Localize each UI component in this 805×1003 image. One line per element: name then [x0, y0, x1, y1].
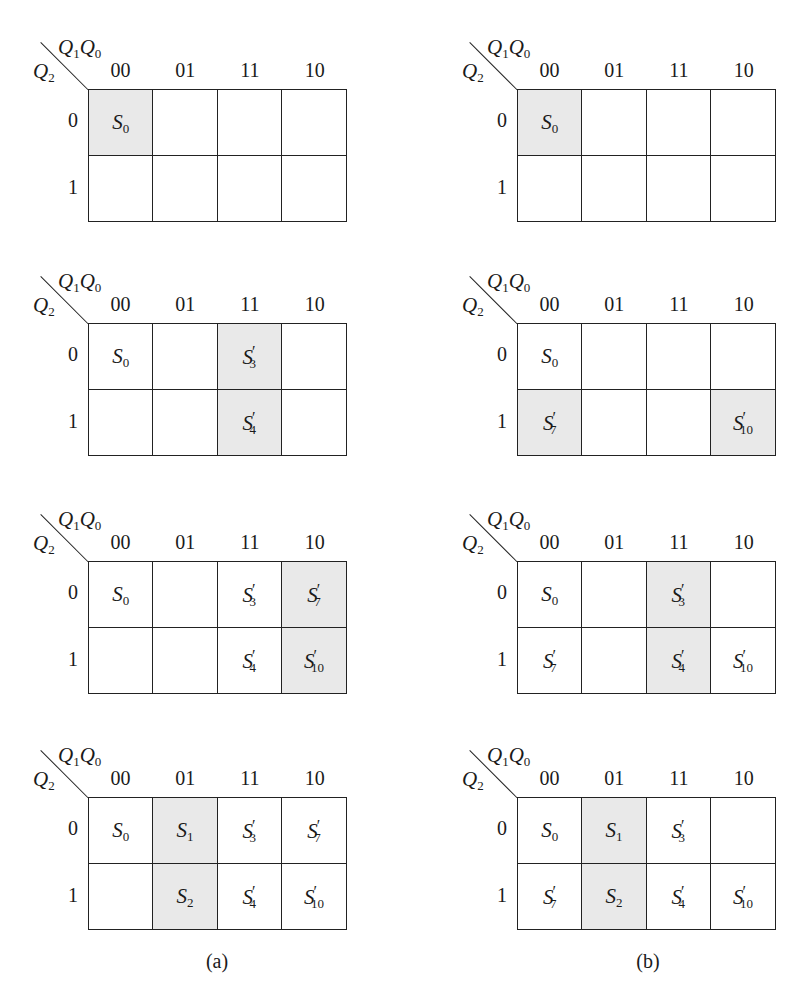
row-variable-label: Q2 [33, 59, 55, 84]
column-header-10: 10 [711, 59, 776, 82]
state-label: S′10 [733, 647, 753, 674]
variable-letter: Q [33, 293, 48, 317]
variable-letter: Q [80, 507, 95, 531]
state-letter: S [112, 344, 123, 368]
kmap-cell-r1-c11 [218, 156, 282, 222]
kmap-cell-r0-c00: S0 [518, 798, 582, 864]
state-subscript: 2 [187, 895, 194, 910]
kmap-cell-r0-c00: S0 [89, 562, 153, 628]
kmap-cell-r0-c00: S0 [89, 324, 153, 390]
state-letter: S [112, 818, 123, 842]
row-variable-label: Q2 [462, 293, 484, 318]
column-header-11: 11 [218, 293, 283, 316]
state-letter: S [112, 582, 123, 606]
row-variable-label: Q2 [462, 767, 484, 792]
variable-letter: Q [462, 59, 477, 83]
column-header-01: 01 [582, 59, 647, 82]
state-label: S′7 [543, 409, 557, 436]
variable-letter: Q [487, 743, 502, 767]
kmap-cell-r1-c10: S′10 [282, 864, 346, 930]
state-subscript: 10 [740, 896, 753, 911]
kmap-cell-r1-c10: S′10 [711, 628, 775, 694]
state-letter: S [541, 582, 552, 606]
row-variable-label: Q2 [462, 531, 484, 556]
state-subscript: 0 [552, 829, 559, 844]
state-subscript: 4 [678, 896, 685, 911]
column-variable-label: Q1Q0 [487, 269, 530, 294]
kmap-cell-r0-c01 [153, 324, 217, 390]
kmap-cell-r0-c00: S0 [89, 90, 153, 156]
column-variable-label: Q1Q0 [58, 35, 101, 60]
state-subscript: 10 [311, 660, 324, 675]
kmap-cell-r0-c10 [711, 798, 775, 864]
state-label: S′7 [543, 647, 557, 674]
state-label: S2 [176, 884, 193, 909]
row-header-0: 0 [495, 343, 509, 366]
row-header-1: 1 [66, 884, 80, 907]
kmap-panel-a4: Q1Q0Q20001111001S0S1S′3S′7S2S′4S′10 [88, 797, 408, 997]
variable-subscript: 2 [477, 778, 484, 793]
row-variable-label: Q2 [33, 767, 55, 792]
variable-letter: Q [33, 767, 48, 791]
kmap-cell-r1-c10: S′10 [282, 628, 346, 694]
column-variable-label: Q1Q0 [58, 507, 101, 532]
kmap-cell-r0-c10 [711, 562, 775, 628]
column-header-00: 00 [517, 293, 582, 316]
state-subscript: 0 [123, 593, 130, 608]
kmap-cell-r1-c00 [518, 156, 582, 222]
variable-subscript: 2 [477, 304, 484, 319]
column-header-01: 01 [582, 531, 647, 554]
kmap-cell-r0-c10 [282, 324, 346, 390]
kmap-cell-r1-c01 [582, 156, 646, 222]
kmap-cell-r0-c01: S1 [153, 798, 217, 864]
state-label: S0 [541, 110, 558, 135]
kmap-panel-b2: Q1Q0Q20001111001S0S′7S′10 [517, 323, 805, 523]
state-subscript: 0 [123, 355, 130, 370]
state-label: S′4 [242, 409, 256, 436]
state-subscript: 3 [249, 594, 256, 609]
variable-letter: Q [462, 531, 477, 555]
clipped-text-line [40, 998, 640, 1003]
kmap-cell-r0-c01 [582, 90, 646, 156]
variable-letter: Q [509, 35, 524, 59]
kmap-cell-r1-c00 [89, 156, 153, 222]
row-header-0: 0 [66, 581, 80, 604]
column-header-11: 11 [647, 293, 712, 316]
kmap-cell-r0-c11 [218, 90, 282, 156]
state-label: S′10 [304, 883, 324, 910]
state-subscript: 3 [249, 356, 256, 371]
state-subscript: 3 [678, 830, 685, 845]
kmap-cell-r1-c10 [282, 390, 346, 456]
row-header-1: 1 [66, 410, 80, 433]
kmap-cell-r1-c00 [89, 628, 153, 694]
state-label: S2 [605, 884, 622, 909]
state-subscript: 7 [550, 422, 557, 437]
kmap-cell-r0-c01 [153, 562, 217, 628]
variable-subscript: 2 [477, 542, 484, 557]
variable-letter: Q [487, 269, 502, 293]
row-header-1: 1 [66, 176, 80, 199]
variable-subscript: 2 [48, 304, 55, 319]
column-header-00: 00 [517, 59, 582, 82]
kmap-cell-r1-c10: S′10 [711, 390, 775, 456]
variable-letter: Q [80, 35, 95, 59]
kmap-cell-r0-c10 [282, 90, 346, 156]
kmap-cell-r0-c00: S0 [518, 324, 582, 390]
row-header-0: 0 [495, 817, 509, 840]
kmap-grid: S0S′3S′7S′4S′10 [88, 561, 347, 694]
kmap-cell-r1-c00 [89, 864, 153, 930]
kmap-cell-r1-c01 [153, 390, 217, 456]
state-subscript: 0 [552, 355, 559, 370]
column-variable-label: Q1Q0 [58, 269, 101, 294]
kmap-cell-r1-c11: S′4 [647, 864, 711, 930]
row-variable-label: Q2 [33, 293, 55, 318]
variable-letter: Q [58, 269, 73, 293]
kmap-panel-a2: Q1Q0Q20001111001S0S′3S′4 [88, 323, 408, 523]
column-header-00: 00 [88, 293, 153, 316]
state-subscript: 0 [552, 593, 559, 608]
state-label: S′4 [671, 647, 685, 674]
state-subscript: 1 [616, 829, 623, 844]
kmap-cell-r0-c00: S0 [518, 90, 582, 156]
variable-letter: Q [33, 59, 48, 83]
kmap-cell-r0-c11: S′3 [647, 798, 711, 864]
